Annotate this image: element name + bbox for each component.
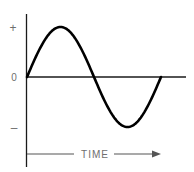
y-tick-label-minus: – <box>11 121 18 135</box>
y-tick-label-zero: 0 <box>11 72 17 83</box>
x-axis-label-time: TIME <box>81 149 109 160</box>
time-arrow-head-icon <box>152 151 161 158</box>
y-tick-label-plus: + <box>9 21 16 35</box>
sine-wave-diagram: + 0 – TIME <box>0 0 194 172</box>
